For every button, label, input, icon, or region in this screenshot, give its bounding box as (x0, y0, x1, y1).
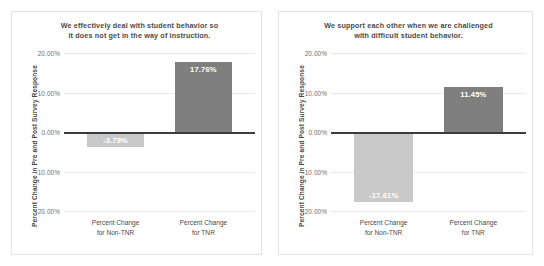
plot-area-left: 20.00% 10.00% 0.00% -10.00% -20.00% -3.7… (64, 53, 255, 211)
y-tick-label-0: 0.00% (41, 129, 60, 136)
chart-title-left-line1: We effectively deal with student behavio… (61, 21, 218, 30)
y-tick-label-neg20: -20.00% (35, 208, 60, 215)
plot-area-right: 20.00% 10.00% 0.00% -10.00% -20.00% -17.… (331, 53, 526, 211)
gridline-20 (331, 53, 526, 54)
x-axis-label-non-tnr: Percent Change for Non-TNR (92, 218, 140, 237)
y-axis-title-left: Percent Change in Pre and Post Survey Re… (31, 61, 43, 231)
bar-non-tnr: -17.61% (354, 132, 413, 202)
chart-title-right: We support each other when we are challe… (293, 21, 524, 41)
x-axis-label-tnr-line1: Percent Change (450, 219, 498, 226)
y-tick-label-neg20: -20.00% (302, 208, 327, 215)
y-tick-label-neg10: -10.00% (302, 168, 327, 175)
bar-value-non-tnr: -3.79% (103, 136, 128, 145)
chart-title-left: We effectively deal with student behavio… (26, 21, 253, 41)
chart-panel-left: We effectively deal with student behavio… (11, 11, 262, 255)
x-axis-label-non-tnr-line2: for Non-TNR (97, 229, 134, 236)
x-axis-label-tnr-line2: for TNR (192, 229, 215, 236)
zero-line (331, 132, 526, 134)
two-panel-bar-chart-figure: We effectively deal with student behavio… (0, 0, 544, 266)
x-axis-label-tnr-line2: for TNR (462, 229, 485, 236)
bar-non-tnr: -3.79% (87, 132, 144, 147)
chart-title-left-line2: it does not get in the way of instructio… (68, 31, 210, 40)
y-tick-label-10: 10.00% (305, 89, 327, 96)
y-axis-title-right: Percent Change in Pre and Post Survey Re… (298, 61, 310, 231)
x-axis-label-non-tnr: Percent Change for Non-TNR (360, 218, 408, 237)
chart-title-right-line2: with difficult student behavior. (354, 31, 463, 40)
bar-value-tnr: 17.76% (190, 65, 217, 74)
y-tick-label-20: 20.00% (38, 50, 60, 57)
bar-tnr: 17.76% (175, 62, 232, 132)
gridline-neg10 (64, 172, 255, 173)
x-axis-label-tnr: Percent Change for TNR (450, 218, 498, 237)
gridline-neg20 (331, 211, 526, 212)
y-tick-label-neg10: -10.00% (35, 168, 60, 175)
x-axis-label-non-tnr-line1: Percent Change (360, 219, 408, 226)
y-tick-label-0: 0.00% (308, 129, 327, 136)
x-axis-label-non-tnr-line1: Percent Change (92, 219, 140, 226)
bar-value-non-tnr: -17.61% (369, 191, 398, 200)
y-tick-label-20: 20.00% (305, 50, 327, 57)
bar-tnr: 11.45% (444, 87, 503, 132)
bar-value-tnr: 11.45% (460, 90, 486, 99)
chart-title-right-line1: We support each other when we are challe… (324, 21, 493, 30)
y-tick-label-10: 10.00% (38, 89, 60, 96)
gridline-neg20 (64, 211, 255, 212)
x-axis-label-tnr: Percent Change for TNR (180, 218, 228, 237)
chart-panel-right: We support each other when we are challe… (278, 11, 533, 255)
x-axis-label-tnr-line1: Percent Change (180, 219, 228, 226)
x-axis-label-non-tnr-line2: for Non-TNR (365, 229, 402, 236)
zero-line (64, 132, 255, 134)
gridline-20 (64, 53, 255, 54)
